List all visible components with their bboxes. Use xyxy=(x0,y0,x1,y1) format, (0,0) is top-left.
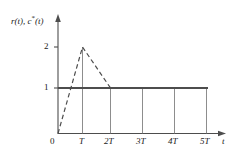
x-tick-label-T: T xyxy=(79,137,84,146)
y-axis-label: r(t), c*(t) xyxy=(11,15,44,26)
y-axis-arrowhead xyxy=(55,14,61,22)
figure-container: r(t), c*(t) t 0 2 1 T 2T 3T 4T 5T xyxy=(0,0,242,159)
origin-label: 0 xyxy=(50,137,55,146)
series-c-star-of-t xyxy=(58,47,111,134)
y-tick-label-1: 1 xyxy=(44,83,49,92)
x-tick-label-2T: 2T xyxy=(104,137,114,146)
x-tick-label-4T: 4T xyxy=(168,137,178,146)
x-axis-label: t xyxy=(222,137,225,146)
y-tick-label-2: 2 xyxy=(44,42,49,51)
x-tick-label-3T: 3T xyxy=(136,137,146,146)
x-tick-label-5T: 5T xyxy=(200,137,210,146)
y-axis-label-part1: r(t), c xyxy=(11,16,32,26)
y-axis-label-part2: (t) xyxy=(35,16,44,26)
